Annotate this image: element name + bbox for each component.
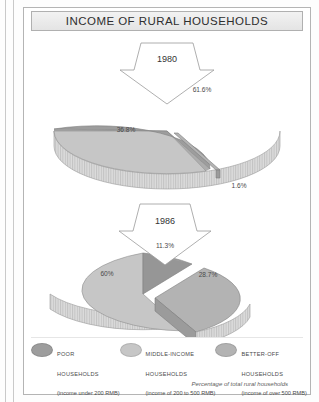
legend-middle-line2: HOUSEHOLDS xyxy=(146,371,188,377)
pie-1980-label-better-off: 1.6% xyxy=(231,182,246,189)
legend-better-off-line2: HOUSEHOLDS xyxy=(241,371,283,377)
legend-better-off-line3: (income of over 500 RMB) xyxy=(241,390,306,396)
page-edge-rule-inner xyxy=(13,0,14,402)
pie-1986-year-label: 1986 xyxy=(155,216,175,226)
legend: POOR HOUSEHOLDS (income under 200 RMB) M… xyxy=(31,341,305,379)
legend-swatch-better-off-icon xyxy=(215,343,237,357)
charts-stage: 1980 61.6% 36.8% 1.6% xyxy=(24,32,310,337)
year-arrow-1980 xyxy=(120,43,214,104)
pie-1980-label-poor: 61.6% xyxy=(193,86,212,93)
pie-1980-year-label: 1980 xyxy=(157,54,177,64)
infographic-page: INCOME OF RURAL HOUSEHOLDS xyxy=(0,0,319,402)
title-bar: INCOME OF RURAL HOUSEHOLDS xyxy=(31,11,303,31)
page-title: INCOME OF RURAL HOUSEHOLDS xyxy=(66,15,268,27)
pie-1986-label-middle: 28.7% xyxy=(199,271,218,278)
legend-better-off-line1: BETTER-OFF xyxy=(241,351,279,357)
legend-middle-line3: (income of 200 to 500 RMB) xyxy=(146,390,216,396)
legend-item-better-off: BETTER-OFF HOUSEHOLDS (income of over 50… xyxy=(215,341,306,379)
footnote: Percentage of total rural households xyxy=(192,381,288,387)
legend-swatch-middle-income-icon xyxy=(120,343,142,357)
legend-swatch-poor-icon xyxy=(31,343,53,357)
pie-chart-1980: 1980 61.6% 36.8% 1.6% xyxy=(54,43,280,189)
legend-divider xyxy=(31,337,303,338)
legend-item-poor: POOR HOUSEHOLDS (income under 200 RMB) xyxy=(31,341,120,379)
pie-charts-svg: 1980 61.6% 36.8% 1.6% xyxy=(24,32,310,337)
pie-1986-label-better-off: 11.3% xyxy=(156,242,174,249)
pie-1980-year-callout: 1980 xyxy=(120,43,214,104)
page-edge-rule-outer xyxy=(5,0,6,402)
pie-chart-1986: 1986 60% 28.7% 11.3% xyxy=(50,204,250,337)
legend-middle-line1: MIDDLE-INCOME xyxy=(146,351,195,357)
legend-item-middle-income: MIDDLE-INCOME HOUSEHOLDS (income of 200 … xyxy=(120,341,216,379)
pie-1986-label-poor: 60% xyxy=(100,270,113,277)
pie-1980-label-middle: 36.8% xyxy=(117,126,136,133)
legend-poor-line3: (income under 200 RMB) xyxy=(57,390,120,396)
legend-poor-line1: POOR xyxy=(57,351,74,357)
legend-poor-line2: HOUSEHOLDS xyxy=(57,371,99,377)
